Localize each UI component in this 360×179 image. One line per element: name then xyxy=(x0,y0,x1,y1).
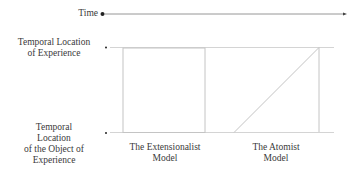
top-reference-dot xyxy=(105,47,107,49)
bottom-reference-dot xyxy=(105,132,107,134)
time-axis xyxy=(101,12,348,16)
diagram-canvas xyxy=(0,0,360,179)
atomist-model-diagonal xyxy=(234,48,319,133)
extensionalist-model-box xyxy=(123,48,205,133)
time-axis-arrowhead-icon xyxy=(343,13,347,16)
time-axis-start-dot xyxy=(101,12,105,16)
